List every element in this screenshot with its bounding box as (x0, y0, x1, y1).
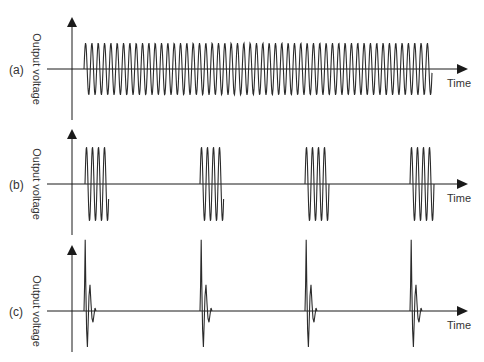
panel-label: (a) (9, 63, 24, 77)
oscillation-waveforms-figure: (a) Output voltage Time (b) Output volta… (0, 0, 484, 362)
y-axis-title: Output voltage (31, 33, 43, 105)
waveform (84, 240, 422, 347)
y-axis-arrow-icon (67, 129, 77, 139)
y-axis-title: Output voltage (31, 275, 43, 347)
y-axis-arrow-icon (67, 245, 77, 255)
y-axis-title: Output voltage (31, 148, 43, 220)
panel-label: (c) (9, 305, 23, 319)
panel-c: (c) Output voltage Time (9, 240, 471, 352)
x-axis-title: Time (447, 192, 471, 204)
x-axis-title: Time (447, 319, 471, 331)
x-axis-title: Time (447, 77, 471, 89)
y-axis-arrow-icon (67, 17, 77, 27)
time-axis-arrow-icon (457, 179, 468, 189)
panel-label: (b) (9, 178, 24, 192)
time-axis-arrow-icon (457, 306, 468, 316)
panel-b: (b) Output voltage Time (9, 129, 471, 235)
time-axis-arrow-icon (457, 64, 468, 74)
panel-a: (a) Output voltage Time (9, 17, 471, 120)
